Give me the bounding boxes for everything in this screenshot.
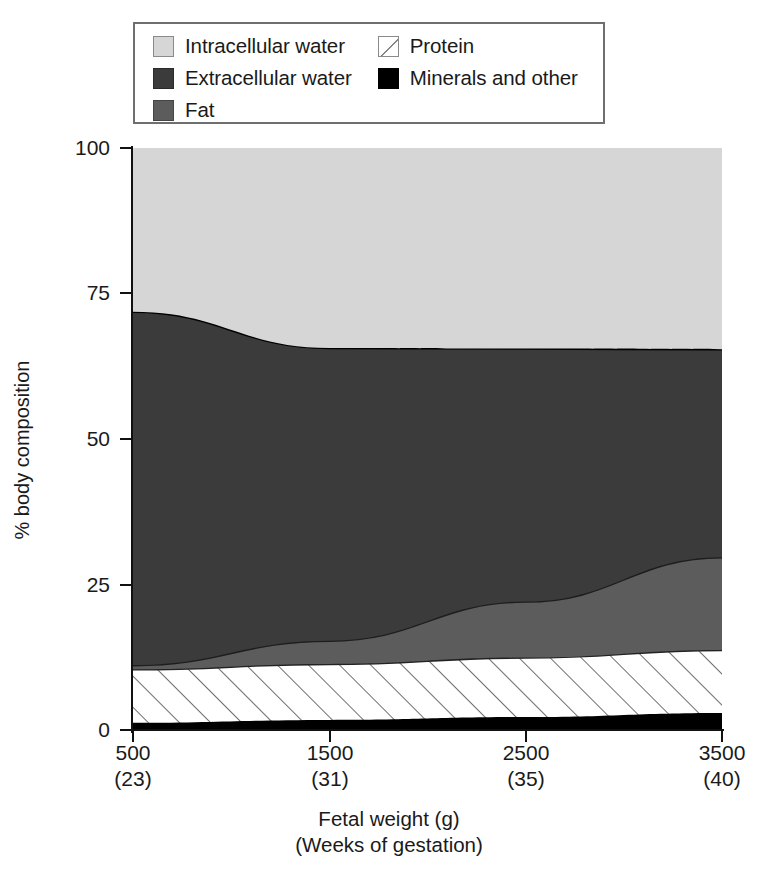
x-tick-weeks-2500: (35) [466,766,586,792]
x-tick-weight-1500: 1500 [307,741,354,764]
x-tick-weeks-3500: (40) [662,766,778,792]
y-tick-label-50: 50 [48,428,110,449]
y-axis-line [131,146,133,733]
x-tick-label-500: 500 (23) [73,740,193,791]
legend-columns: Intracellular water Extracellular water … [153,33,578,124]
x-tick-weight-500: 500 [115,741,150,764]
chart-legend: Intracellular water Extracellular water … [133,22,605,124]
y-tick-0 [120,729,131,731]
x-tick-label-3500: 3500 (40) [662,740,778,791]
x-axis-title-line1: Fetal weight (g) [0,806,778,832]
chart-page: Intracellular water Extracellular water … [0,0,778,879]
x-tick-label-2500: 2500 (35) [466,740,586,791]
stacked-area-chart [133,148,722,731]
x-axis-title-line2: (Weeks of gestation) [0,832,778,858]
legend-label-protein: Protein [410,36,474,57]
legend-item-intracellular-water: Intracellular water [153,33,352,60]
x-tick-weeks-1500: (31) [270,766,390,792]
legend-swatch-icon-protein [378,36,399,57]
legend-swatch-icon-extracellular-water [153,68,174,89]
x-tick-weeks-500: (23) [73,766,193,792]
legend-column-left: Intracellular water Extracellular water … [153,33,352,124]
y-tick-50 [120,438,131,440]
legend-column-right: Protein Minerals and other [378,33,578,124]
legend-label-fat: Fat [185,100,214,121]
y-tick-label-25: 25 [48,574,110,595]
x-axis-title: Fetal weight (g) (Weeks of gestation) [0,806,778,858]
y-tick-label-0: 0 [48,719,110,740]
y-tick-100 [120,147,131,149]
y-tick-label-100: 100 [48,137,110,158]
legend-label-extracellular-water: Extracellular water [185,68,352,89]
legend-item-minerals-and-other: Minerals and other [378,65,578,92]
legend-label-intracellular-water: Intracellular water [185,36,345,57]
legend-item-extracellular-water: Extracellular water [153,65,352,92]
area-band-intracellular-water [133,148,722,349]
legend-label-minerals-and-other: Minerals and other [410,68,578,89]
x-tick-weight-3500: 3500 [699,741,746,764]
legend-item-protein: Protein [378,33,578,60]
legend-item-fat: Fat [153,97,352,124]
x-axis-line [131,729,724,731]
area-bands [133,148,722,731]
y-tick-25 [120,584,131,586]
y-tick-75 [120,292,131,294]
legend-swatch-icon-intracellular-water [153,36,174,57]
y-axis-title: % body composition [12,260,32,640]
x-tick-weight-2500: 2500 [503,741,550,764]
plot-area [133,148,722,731]
legend-swatch-icon-fat [153,100,174,121]
legend-swatch-icon-minerals-and-other [378,68,399,89]
y-tick-label-75: 75 [48,282,110,303]
x-tick-label-1500: 1500 (31) [270,740,390,791]
